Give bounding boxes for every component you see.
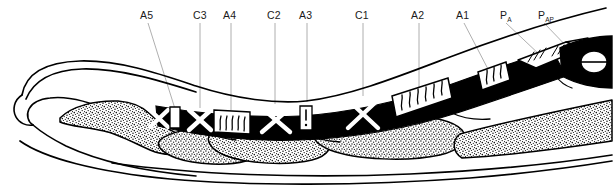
annular-pulley-A5 [170, 107, 180, 128]
label-A2: A2 [411, 9, 424, 26]
label-C1: C1 [355, 9, 369, 26]
label-A3: A3 [299, 9, 312, 26]
label-PAP: PAP [538, 9, 554, 26]
bone-metacarpal-distal [454, 100, 612, 158]
label-A1: A1 [456, 9, 469, 26]
leader-A5 [148, 23, 176, 112]
label-C3: C3 [193, 9, 207, 26]
label-PA: PA [500, 9, 512, 26]
annular-pulley-A4 [214, 110, 250, 134]
label-C2: C2 [267, 9, 281, 26]
figure-canvas: A5 C3 A4 C2 A3 C1 A2 A1 PA PAP [0, 0, 614, 191]
finger-pulley-illustration [0, 0, 614, 191]
label-A4: A4 [223, 9, 236, 26]
annular-pulley-A3 [300, 106, 312, 130]
label-A5: A5 [140, 9, 153, 26]
